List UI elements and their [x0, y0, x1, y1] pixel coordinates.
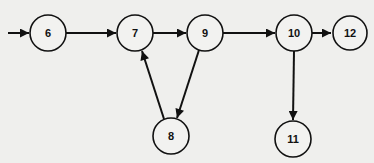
- node-8-label: 8: [168, 130, 174, 142]
- node-7: 7: [117, 15, 153, 51]
- node-10-label: 10: [288, 27, 300, 39]
- node-8: 8: [153, 118, 189, 154]
- graph-svg: 6 7 9 10 12 8 11: [0, 0, 374, 163]
- node-11: 11: [275, 121, 311, 157]
- node-11-label: 11: [287, 133, 299, 145]
- flow-graph-diagram: 6 7 9 10 12 8 11: [0, 0, 374, 163]
- node-10: 10: [276, 15, 312, 51]
- node-12: 12: [333, 16, 367, 50]
- node-12-label: 12: [344, 27, 356, 39]
- node-6-label: 6: [45, 27, 51, 39]
- edge-8-to-7: [142, 51, 164, 119]
- node-9-label: 9: [202, 27, 208, 39]
- node-9: 9: [187, 15, 223, 51]
- edge-9-to-8: [177, 50, 199, 118]
- node-7-label: 7: [132, 27, 138, 39]
- node-6: 6: [30, 15, 66, 51]
- edge-10-to-11: [293, 51, 294, 120]
